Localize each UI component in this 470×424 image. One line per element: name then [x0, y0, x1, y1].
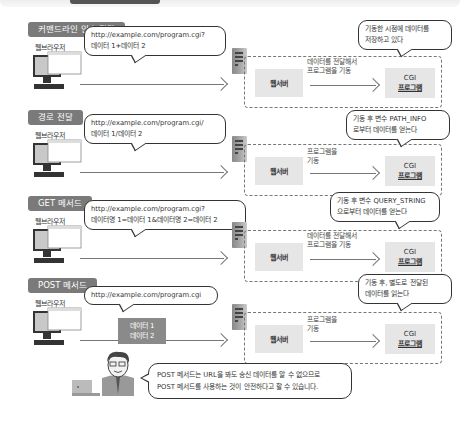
mid-label: 프로그램을기동	[307, 148, 337, 166]
cgi-program-box: CGI프로그램	[385, 156, 435, 186]
arrow-right-icon	[214, 251, 228, 265]
footer-note-line-1: POST 메서드는 URL을 봐도 송신 데이터를 알 수 없으므로	[157, 369, 343, 381]
footer-note-bubble: POST 메서드는 URL을 봐도 송신 데이터를 알 수 없으므로 POST …	[148, 363, 352, 399]
request-url-bubble: http://example.com/program.cgi?데이터 1+데이터…	[84, 26, 226, 56]
web-server-box: 웹서버	[255, 69, 303, 97]
computer-icon	[32, 51, 82, 91]
post-data-2: 데이터 2	[118, 331, 166, 341]
computer-icon	[32, 307, 82, 347]
post-data-block: 데이터 1 데이터 2	[118, 318, 166, 344]
section-tag: 경로 전달	[28, 110, 83, 125]
cgi-note-bubble: 기동 후, 별도로 전달된데이터를 읽는다	[358, 274, 452, 304]
request-url-line: 데이터명 1=데이터 1&데이터명 2=데이터 2	[91, 215, 239, 226]
section-2: GET 메서드 웹브라우저 http://example.com/program…	[0, 196, 470, 286]
request-url-bubble: http://example.com/program.cgi/데이터 1/데이터…	[84, 114, 226, 144]
web-server-box: 웹서버	[255, 325, 303, 353]
request-line	[80, 172, 224, 173]
mid-label: 프로그램을기동	[307, 316, 337, 334]
laptop-icon	[72, 380, 92, 394]
request-line	[80, 258, 224, 259]
request-url-bubble: http://example.com/program.cgi	[84, 286, 218, 305]
mid-label: 데이터를 전달해서프로그램을 기동	[307, 232, 357, 250]
section-tag: GET 메서드	[28, 196, 92, 211]
web-server-box: 웹서버	[255, 157, 303, 185]
cgi-program-box: CGI프로그램	[385, 324, 435, 354]
cgi-note-bubble: 기동 후 변수 QUERY_STRING으로부터 데이터를 얻는다	[330, 192, 440, 222]
computer-icon	[32, 225, 82, 265]
person-with-laptop-icon	[72, 350, 142, 398]
cgi-program-box: CGI프로그램	[385, 242, 435, 272]
arrow-right-icon	[214, 333, 228, 347]
cgi-note-bubble: 기동한 시점에 데이터를저장하고 있다	[358, 20, 452, 50]
cgi-program-box: CGI프로그램	[385, 68, 435, 98]
web-server-box: 웹서버	[255, 243, 303, 271]
mid-label: 데이터를 전달해서프로그램을 기동	[307, 58, 357, 76]
post-data-1: 데이터 1	[118, 321, 166, 331]
request-url-line: http://example.com/program.cgi	[91, 290, 211, 301]
header-title-fragment	[70, 0, 160, 4]
footer-note-line-2: POST 메서드를 사용하는 것이 안전하다고 할 수 있습니다.	[157, 381, 343, 393]
cgi-note-bubble: 기동 후 변수 PATH_INFO로부터 데이터를 얻는다	[346, 110, 450, 140]
arrow-right-icon	[214, 165, 228, 179]
arrow-right-icon	[214, 77, 228, 91]
request-url-line: http://example.com/program.cgi?	[91, 30, 219, 41]
section-0: 커맨드라인 인수 전달 웹브라우저 http://example.com/pro…	[0, 22, 470, 112]
header-strip	[0, 0, 460, 7]
request-line	[80, 84, 224, 85]
request-url-line: http://example.com/program.cgi/	[91, 118, 219, 129]
request-url-line: http://example.com/program.cgi?	[91, 204, 239, 215]
section-1: 경로 전달 웹브라우저 http://example.com/program.c…	[0, 110, 470, 200]
computer-icon	[32, 139, 82, 179]
request-url-bubble: http://example.com/program.cgi?데이터명 1=데이…	[84, 200, 246, 230]
request-url-line: 데이터 1+데이터 2	[91, 41, 219, 52]
section-3: POST 메서드 웹브라우저 http://example.com/progra…	[0, 278, 470, 368]
request-url-line: 데이터 1/데이터 2	[91, 129, 219, 140]
